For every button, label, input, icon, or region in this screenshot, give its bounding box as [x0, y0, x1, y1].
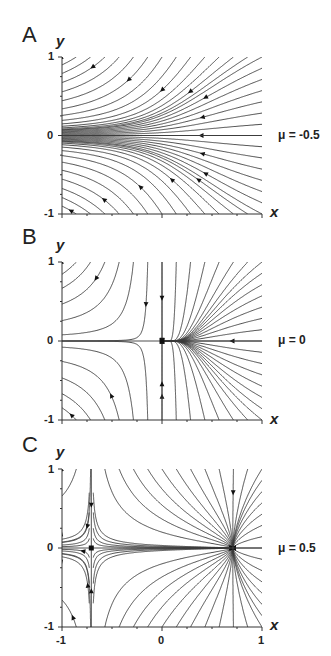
- phase-portrait-c: [0, 0, 331, 656]
- panel-c: C y 1 0 -1 x -1 0 1 μ = 0.5: [0, 0, 331, 656]
